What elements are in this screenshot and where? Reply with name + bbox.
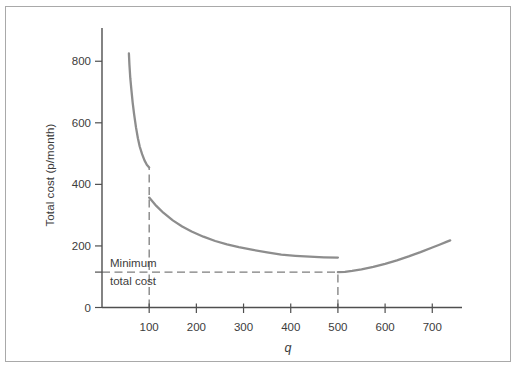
- y-tick-label: 600: [72, 117, 91, 129]
- minimum-cost-annotation-line2: total cost: [110, 275, 156, 287]
- x-tick-label: 500: [328, 321, 347, 333]
- figure: 1002003004005006007000200400600800 Total…: [0, 0, 522, 375]
- x-axis-title: q: [285, 341, 292, 355]
- x-tick-label: 700: [423, 321, 442, 333]
- x-tick-label: 600: [375, 321, 394, 333]
- total-cost-segment-1: [129, 54, 149, 168]
- minimum-cost-annotation-line1: Minimum: [110, 257, 157, 269]
- x-tick-label: 300: [234, 321, 253, 333]
- x-tick-label: 100: [140, 321, 159, 333]
- total-cost-chart: 1002003004005006007000200400600800: [0, 0, 522, 375]
- y-tick-label: 0: [85, 302, 91, 314]
- total-cost-segment-3: [338, 240, 450, 272]
- x-tick-label: 400: [281, 321, 300, 333]
- total-cost-segment-2: [149, 198, 338, 258]
- y-tick-label: 800: [72, 55, 91, 67]
- y-tick-label: 200: [72, 240, 91, 252]
- y-tick-label: 400: [72, 178, 91, 190]
- y-axis-title: Total cost (p/month): [44, 124, 56, 227]
- x-tick-label: 200: [187, 321, 206, 333]
